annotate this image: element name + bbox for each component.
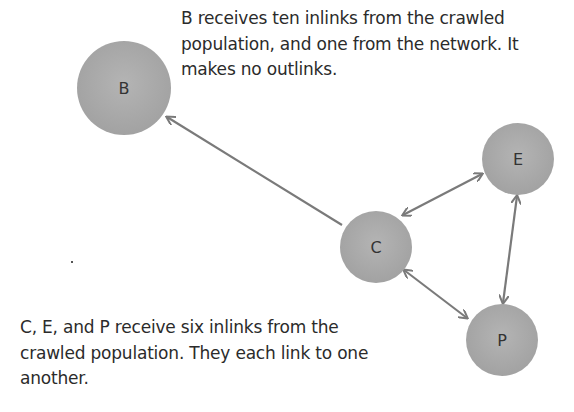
node-p-label: P <box>497 331 507 350</box>
caption-top-line-2: population, and one from the network. It <box>181 32 561 58</box>
node-p: P <box>466 304 538 376</box>
node-b: B <box>77 41 171 135</box>
stray-dot <box>71 261 73 263</box>
caption-top-line-3: makes no outlinks. <box>181 57 561 83</box>
edge-c-e <box>403 174 482 215</box>
edge-e-p <box>503 196 517 303</box>
caption-bottom-line-1: C, E, and P receive six inlinks from the <box>20 315 390 341</box>
node-c: C <box>340 211 412 283</box>
caption-top-line-1: B receives ten inlinks from the crawled <box>181 6 561 32</box>
caption-bottom-line-3: another. <box>20 366 390 392</box>
node-c-label: C <box>370 238 381 257</box>
node-b-label: B <box>119 79 130 98</box>
edge-c-to-b <box>167 117 342 225</box>
node-e-label: E <box>513 150 523 169</box>
caption-top: B receives ten inlinks from the crawled … <box>181 6 561 83</box>
node-e: E <box>482 123 554 195</box>
caption-bottom: C, E, and P receive six inlinks from the… <box>20 315 390 392</box>
edge-c-p <box>404 270 467 318</box>
caption-bottom-line-2: crawled population. They each link to on… <box>20 341 390 367</box>
